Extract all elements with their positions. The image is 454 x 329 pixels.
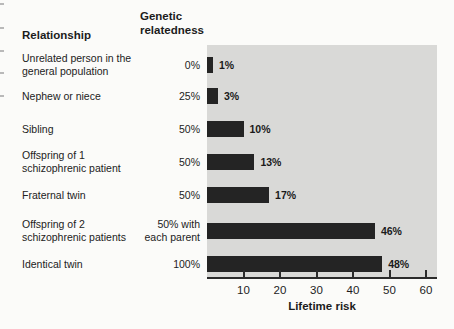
- edge-mark: [0, 3, 4, 5]
- risk-bar-value-label: 46%: [381, 223, 402, 239]
- relationship-label: Nephew or niece: [22, 90, 140, 103]
- edge-mark: [0, 72, 4, 74]
- risk-bar: [207, 223, 375, 239]
- x-axis-tick: [243, 270, 245, 277]
- genetic-relatedness-value: 50%: [128, 123, 200, 136]
- risk-bar: [207, 121, 244, 137]
- risk-bar-value-label: 1%: [219, 57, 234, 73]
- x-axis-tick-label: 50: [373, 284, 407, 296]
- x-axis-tick: [352, 270, 354, 277]
- relationship-column-header: Relationship: [22, 29, 91, 43]
- relationship-label: Sibling: [22, 123, 140, 136]
- genetic-relatedness-column-header: Genetic relatedness: [140, 10, 204, 37]
- x-axis-tick-label: 30: [300, 284, 334, 296]
- x-axis-tick-label: 20: [263, 284, 297, 296]
- risk-bar: [207, 256, 382, 272]
- risk-bar: [207, 187, 269, 203]
- relationship-label: Offspring of 1 schizophrenic patient: [22, 149, 140, 175]
- risk-bar: [207, 57, 213, 73]
- edge-mark: [0, 95, 4, 97]
- relationship-label: Offspring of 2 schizophrenic patients: [22, 218, 140, 244]
- genetic-relatedness-value: 100%: [128, 258, 200, 271]
- genetic-relatedness-value: 50%: [128, 189, 200, 202]
- genetic-relatedness-value: 25%: [128, 90, 200, 103]
- risk-bar: [207, 88, 218, 104]
- relationship-label: Identical twin: [22, 258, 140, 271]
- x-axis-tick-label: 40: [336, 284, 370, 296]
- x-axis-tick-label: 60: [409, 284, 443, 296]
- plot-area: 1%3%10%13%17%46%48%: [207, 45, 437, 279]
- genetic-relatedness-value: 0%: [128, 59, 200, 72]
- risk-bar-value-label: 48%: [388, 256, 409, 272]
- risk-bar-value-label: 3%: [224, 88, 239, 104]
- genetic-relatedness-value: 50% with each parent: [128, 218, 200, 244]
- relationship-label: Fraternal twin: [22, 189, 140, 202]
- edge-mark: [0, 27, 4, 29]
- figure-schizophrenia-risk-chart: Relationship Genetic relatedness Unrelat…: [0, 0, 454, 329]
- edge-mark: [0, 50, 4, 52]
- x-axis-tick: [279, 270, 281, 277]
- risk-bar-value-label: 13%: [260, 154, 281, 170]
- x-axis-tick: [316, 270, 318, 277]
- x-axis-tick: [389, 270, 391, 277]
- risk-bar-value-label: 17%: [275, 187, 296, 203]
- relationship-label: Unrelated person in the general populati…: [22, 52, 140, 78]
- genetic-relatedness-value: 50%: [128, 156, 200, 169]
- x-axis-label: Lifetime risk: [207, 300, 437, 312]
- risk-bar: [207, 154, 254, 170]
- x-axis-tick-label: 10: [227, 284, 261, 296]
- x-axis-tick: [425, 270, 427, 277]
- risk-bar-value-label: 10%: [250, 121, 271, 137]
